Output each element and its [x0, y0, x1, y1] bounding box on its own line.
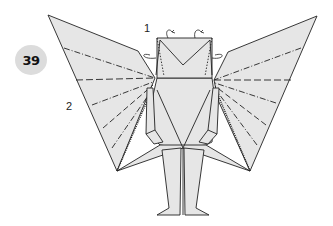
lower-body [117, 145, 250, 171]
step-number: 39 [22, 53, 39, 68]
head [157, 38, 212, 78]
left-leg [157, 148, 181, 215]
right-wing [214, 16, 317, 171]
annotation-1: 1 [144, 22, 150, 34]
left-wing [48, 15, 155, 171]
step-number-badge: 39 [15, 45, 47, 75]
right-leg [184, 148, 209, 215]
origami-diagram [0, 0, 333, 226]
annotation-2: 2 [66, 100, 72, 112]
